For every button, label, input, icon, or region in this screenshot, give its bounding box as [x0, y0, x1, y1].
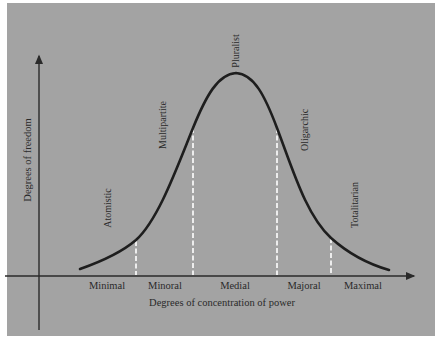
x-category-labels: Minimal Minoral Medial Majoral Maximal [89, 280, 382, 291]
curve-labels: Atomistic Multipartite Pluralist Oligarc… [102, 34, 360, 228]
x-label-minoral: Minoral [148, 280, 182, 291]
x-label-majoral: Majoral [287, 280, 320, 291]
curve-label-atomistic: Atomistic [102, 188, 113, 228]
x-label-minimal: Minimal [89, 280, 125, 291]
y-axis-title: Degrees of freedom [22, 118, 33, 201]
x-label-maximal: Maximal [344, 280, 382, 291]
bell-curve-diagram: Minimal Minoral Medial Majoral Maximal D… [0, 0, 442, 347]
curve-label-multipartite: Multipartite [157, 101, 168, 149]
x-label-medial: Medial [220, 280, 250, 291]
curve-label-totalitarian: Totalitarian [349, 182, 360, 228]
bell-curve [80, 73, 389, 270]
curve-label-oligarchic: Oligarchic [299, 108, 310, 151]
curve-label-pluralist: Pluralist [230, 34, 241, 68]
x-axis-title: Degrees of concentration of power [149, 297, 295, 308]
